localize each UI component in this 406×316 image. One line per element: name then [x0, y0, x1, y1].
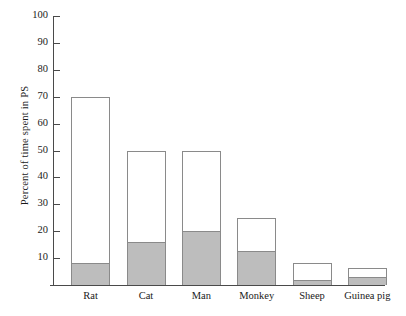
x-axis-category-label: Monkey [229, 290, 284, 301]
bar-segment-lower [349, 277, 386, 285]
bar [348, 268, 387, 285]
y-axis-tick: 60 [53, 124, 60, 125]
y-axis-tick-label: 100 [32, 9, 48, 20]
bar-segment-lower [238, 251, 275, 285]
y-axis-tick-label: 50 [38, 144, 49, 155]
y-axis-tick: 30 [53, 204, 60, 205]
bar-segment-lower [72, 263, 109, 285]
y-axis-tick-label: 10 [38, 251, 49, 262]
y-axis-tick: 10 [53, 258, 60, 259]
bar [71, 97, 110, 285]
y-axis-tick: 70 [53, 97, 60, 98]
x-axis-category-label: Man [174, 290, 229, 301]
y-axis-tick-label: 70 [38, 90, 49, 101]
y-axis-tick: 90 [53, 43, 60, 44]
y-axis-tick-label: 60 [38, 117, 49, 128]
y-axis-tick: 40 [53, 177, 60, 178]
y-axis-tick: 80 [53, 70, 60, 71]
bar-segment-lower [183, 231, 220, 285]
y-axis-tick-label: 80 [38, 63, 49, 74]
stacked-bar-chart: Percent of time spent in PS 102030405060… [0, 0, 406, 316]
y-axis-tick-label: 20 [38, 224, 49, 235]
y-axis-tick-label: 40 [38, 170, 49, 181]
plot-area: 102030405060708090100 RatCatManMonkeyShe… [53, 16, 385, 285]
y-axis-tick-label: 30 [38, 197, 49, 208]
y-axis-tick: 100 [53, 16, 60, 17]
x-axis-category-label: Sheep [284, 290, 339, 301]
x-axis-category-label: Cat [118, 290, 173, 301]
x-axis-category-label: Guinea pig [340, 290, 395, 301]
y-axis-tick-label: 90 [38, 36, 49, 47]
bar [237, 218, 276, 285]
y-axis-title: Percent of time spent in PS [19, 36, 30, 256]
bar [182, 151, 221, 286]
y-axis-tick: 50 [53, 151, 60, 152]
y-axis-tick: 20 [53, 231, 60, 232]
bar-segment-lower [294, 280, 331, 285]
x-axis-line [50, 285, 385, 286]
bar [293, 263, 332, 285]
bar-segment-lower [128, 242, 165, 285]
x-axis-category-label: Rat [63, 290, 118, 301]
bar [127, 151, 166, 286]
